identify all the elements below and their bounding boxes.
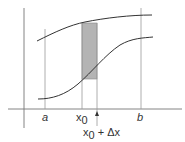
label-x0: x0 bbox=[76, 111, 88, 126]
label-b: b bbox=[137, 111, 143, 123]
label-x0-plus-dx: x0 + Δx bbox=[83, 126, 121, 141]
area-strip bbox=[82, 23, 97, 79]
arrowhead-icon bbox=[95, 111, 99, 116]
area-between-curves-diagram: a b x0 x0 + Δx bbox=[0, 0, 185, 142]
label-a: a bbox=[42, 111, 48, 123]
